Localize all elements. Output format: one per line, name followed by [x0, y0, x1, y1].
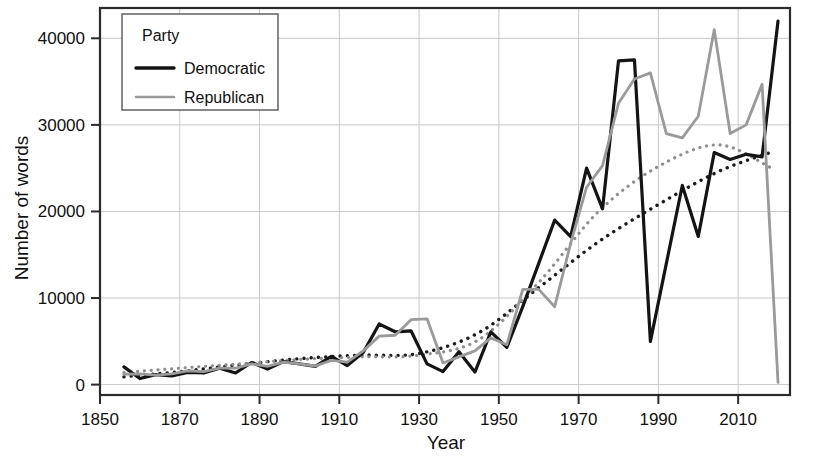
- x-tick-label: 1970: [560, 410, 598, 429]
- x-tick-label: 1990: [639, 410, 677, 429]
- x-tick-label: 1950: [480, 410, 518, 429]
- y-tick-label: 30000: [38, 116, 85, 135]
- chart-container: 1850187018901910193019501970199020100100…: [0, 0, 813, 458]
- legend-label-republican: Republican: [184, 89, 264, 106]
- x-tick-label: 1870: [161, 410, 199, 429]
- y-tick-label: 10000: [38, 289, 85, 308]
- y-tick-label: 40000: [38, 29, 85, 48]
- trend-line: [124, 153, 770, 377]
- x-tick-label: 1850: [81, 410, 119, 429]
- legend-label-democratic: Democratic: [184, 60, 265, 77]
- y-tick-label: 0: [76, 376, 85, 395]
- x-axis-title: Year: [427, 432, 466, 453]
- chart-legend: PartyDemocraticRepublican: [122, 14, 278, 110]
- word-count-line-chart: 1850187018901910193019501970199020100100…: [0, 0, 813, 458]
- trend-line: [124, 145, 770, 373]
- legend-title: Party: [142, 27, 179, 44]
- x-tick-label: 1890: [241, 410, 279, 429]
- x-tick-label: 1910: [320, 410, 358, 429]
- y-axis-title: Number of words: [11, 136, 32, 281]
- x-tick-label: 1930: [400, 410, 438, 429]
- y-tick-label: 20000: [38, 202, 85, 221]
- x-tick-label: 2010: [719, 410, 757, 429]
- trend-lines: [124, 145, 770, 377]
